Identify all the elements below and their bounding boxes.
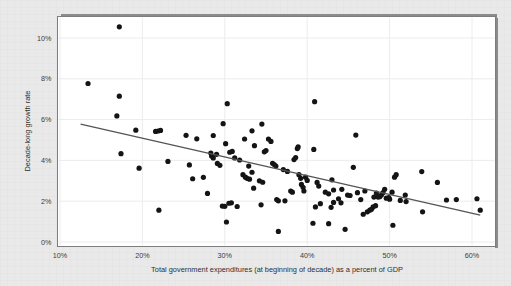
data-point <box>316 184 321 189</box>
data-point <box>338 200 343 205</box>
data-point <box>229 200 234 205</box>
data-point <box>394 172 399 177</box>
data-point <box>258 202 263 207</box>
data-point <box>305 178 310 183</box>
plot-area <box>58 17 496 247</box>
data-point <box>358 197 363 202</box>
data-point <box>223 141 228 146</box>
data-point <box>235 204 240 209</box>
data-point <box>312 99 317 104</box>
data-point <box>246 164 251 169</box>
x-tick-label: 40% <box>300 251 315 260</box>
data-point <box>420 209 425 214</box>
data-point <box>310 221 315 226</box>
data-point <box>331 200 336 205</box>
data-point <box>403 199 408 204</box>
data-point <box>194 136 199 141</box>
data-point <box>268 139 273 144</box>
x-tick-label: 20% <box>135 251 150 260</box>
data-point <box>260 180 265 185</box>
data-point <box>187 162 192 167</box>
data-point <box>263 148 268 153</box>
x-tick-label: 10% <box>53 251 68 260</box>
data-point <box>296 144 301 149</box>
data-point <box>205 191 210 196</box>
data-point <box>373 203 378 208</box>
y-axis-title: Decade-long growth rate <box>23 91 32 172</box>
data-point <box>117 24 122 29</box>
chart-figure: 10%20%30%40%50%60% 0%2%4%6%8%10% Total g… <box>0 0 511 286</box>
data-point <box>156 208 161 213</box>
data-point <box>419 169 424 174</box>
data-point <box>382 187 387 192</box>
data-point <box>158 128 163 133</box>
data-point <box>339 187 344 192</box>
data-point <box>259 121 264 126</box>
data-point <box>474 196 479 201</box>
y-tick-label: 8% <box>41 74 52 83</box>
data-point <box>478 208 483 213</box>
data-point <box>276 229 281 234</box>
data-point <box>201 175 206 180</box>
x-tick-label: 30% <box>218 251 233 260</box>
data-point <box>225 101 230 106</box>
scatter-plot: 10%20%30%40%50%60% 0%2%4%6%8%10% Total g… <box>0 0 511 286</box>
data-point <box>114 113 119 118</box>
data-point <box>221 121 226 126</box>
y-tick-label: 4% <box>41 156 52 165</box>
y-tick-label: 10% <box>37 34 52 43</box>
data-point <box>355 190 360 195</box>
data-point <box>290 190 295 195</box>
data-point <box>276 198 281 203</box>
data-point <box>272 162 277 167</box>
data-point <box>313 204 318 209</box>
data-point <box>390 223 395 228</box>
data-point <box>454 197 459 202</box>
data-point <box>444 197 449 202</box>
data-point <box>222 204 227 209</box>
data-point <box>217 163 222 168</box>
data-point <box>343 227 348 232</box>
data-point <box>347 193 352 198</box>
data-point <box>211 133 216 138</box>
data-point <box>190 176 195 181</box>
data-point <box>293 155 298 160</box>
y-tick-label: 0% <box>41 238 52 247</box>
data-point <box>331 187 336 192</box>
data-point <box>165 159 170 164</box>
data-point <box>387 197 392 202</box>
data-point <box>435 180 440 185</box>
x-axis-title: Total government expenditures (at beginn… <box>151 265 403 274</box>
data-point <box>351 165 356 170</box>
data-point <box>251 186 256 191</box>
data-point <box>353 133 358 138</box>
data-point <box>326 191 331 196</box>
data-point <box>242 136 247 141</box>
data-point <box>301 188 306 193</box>
y-tick-label: 6% <box>41 115 52 124</box>
x-tick-label: 60% <box>465 251 480 260</box>
data-point <box>133 128 138 133</box>
data-point <box>398 198 403 203</box>
data-point <box>230 149 235 154</box>
data-point <box>249 128 254 133</box>
data-point <box>329 205 334 210</box>
data-point <box>118 151 123 156</box>
data-point <box>252 143 257 148</box>
data-point <box>282 198 287 203</box>
data-point <box>311 147 316 152</box>
y-axis-ticks: 0%2%4%6%8%10% <box>37 34 52 247</box>
data-point <box>298 176 303 181</box>
y-tick-label: 2% <box>41 197 52 206</box>
data-point <box>117 94 122 99</box>
x-axis-ticks: 10%20%30%40%50%60% <box>53 251 480 260</box>
data-point <box>361 212 366 217</box>
data-point <box>247 177 252 182</box>
data-point <box>318 201 323 206</box>
x-tick-label: 50% <box>382 251 397 260</box>
data-point <box>326 221 331 226</box>
data-point <box>137 166 142 171</box>
data-point <box>85 81 90 86</box>
data-point <box>224 219 229 224</box>
data-point <box>183 133 188 138</box>
